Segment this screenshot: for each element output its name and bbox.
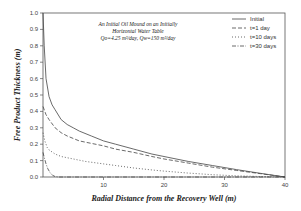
legend-label-1: t=1 day [250,25,270,31]
y-tick-label: 0.9 [30,26,39,32]
annotation: An Initial Oil Mound on an Initially Hor… [98,21,178,41]
y-tick-label: 0.3 [30,125,39,131]
x-tick-label: 30 [221,182,228,188]
legend-label-0: Initial [250,16,264,22]
x-tick-label: 10 [100,182,107,188]
y-tick-label: 0.6 [30,76,39,82]
legend-label-2: t=10 days [250,34,276,40]
x-axis-title: Radial Distance from the Recovery Well (… [90,194,236,203]
x-tick-label: 20 [161,182,168,188]
series-line-1 [43,106,285,177]
annotation-line-2: Horizontal Water Table [111,28,164,34]
x-tick-label: 40 [282,182,289,188]
y-tick-label: 0.2 [30,141,39,147]
series-line-2 [43,133,285,177]
y-tick-label: 0.7 [30,59,39,65]
chart: 0.00.10.20.30.40.50.60.70.80.91.01020304… [0,0,301,211]
y-tick-label: 0.5 [30,92,39,98]
annotation-line-1: An Initial Oil Mound on an Initially [98,21,178,27]
legend: Initialt=1 dayt=10 dayst=30 days [232,16,276,49]
y-tick-label: 0.0 [30,174,39,180]
y-tick-label: 0.4 [30,108,39,114]
annotation-line-3: Qo=4.25 m³/day, Qw=150 m³/day [100,35,176,41]
legend-label-3: t=30 days [250,43,276,49]
y-axis-title: Free Product Thickness (m) [13,48,22,142]
series-line-3 [43,152,285,177]
y-tick-label: 0.8 [30,43,39,49]
y-tick-label: 1.0 [30,10,39,16]
y-tick-label: 0.1 [30,158,39,164]
